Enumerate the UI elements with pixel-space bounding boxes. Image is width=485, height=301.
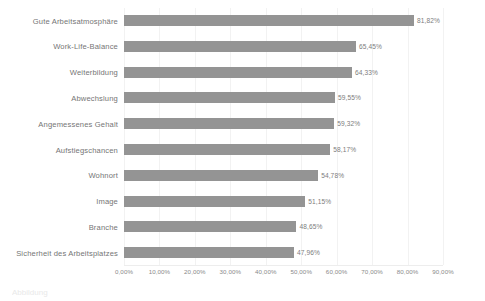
bar-value-label: 51,15%	[305, 196, 331, 207]
bar-value-label: 47,96%	[294, 247, 320, 258]
bar	[124, 170, 318, 181]
bar-row: Image51,15%	[0, 189, 485, 215]
category-label: Image	[0, 189, 118, 215]
bar-row: Weiterbildung64,33%	[0, 60, 485, 86]
x-axis-tick-labels: 0,00%10,00%20,00%30,00%40,00%50,00%60,00…	[0, 268, 485, 280]
x-tick-label: 60,00%	[326, 268, 348, 275]
bar	[124, 118, 334, 129]
bar	[124, 196, 305, 207]
bar	[124, 221, 296, 232]
category-label: Weiterbildung	[0, 60, 118, 86]
bar-row: Wohnort54,78%	[0, 163, 485, 189]
category-label: Wohnort	[0, 163, 118, 189]
bar-row: Work-Life-Balance65,45%	[0, 34, 485, 60]
bar-value-label: 81,82%	[414, 15, 440, 26]
x-tick-label: 10,00%	[149, 268, 171, 275]
category-label: Gute Arbeitsatmosphäre	[0, 8, 118, 34]
bar-value-label: 59,32%	[334, 118, 360, 129]
x-tick-label: 80,00%	[397, 268, 419, 275]
x-tick-label: 0,00%	[115, 268, 133, 275]
category-label: Angemessenes Gehalt	[0, 111, 118, 137]
category-label: Sicherheit des Arbeitsplatzes	[0, 240, 118, 266]
x-tick-label: 50,00%	[290, 268, 312, 275]
bar-row: Gute Arbeitsatmosphäre81,82%	[0, 8, 485, 34]
category-label: Work-Life-Balance	[0, 34, 118, 60]
category-label: Branche	[0, 214, 118, 240]
x-tick-label: 30,00%	[220, 268, 242, 275]
bar	[124, 92, 335, 103]
bar-row: Branche48,65%	[0, 214, 485, 240]
bar	[124, 144, 330, 155]
bar-rows: Gute Arbeitsatmosphäre81,82%Work-Life-Ba…	[0, 0, 485, 265]
bar	[124, 247, 294, 258]
bar-value-label: 64,33%	[352, 67, 378, 78]
x-tick-label: 40,00%	[255, 268, 277, 275]
bar-value-label: 58,17%	[330, 144, 356, 155]
bar-row: Sicherheit des Arbeitsplatzes47,96%	[0, 240, 485, 266]
bar-value-label: 65,45%	[356, 41, 382, 52]
figure-caption-clipped: Abbildung	[12, 289, 242, 301]
x-tick-label: 70,00%	[361, 268, 383, 275]
bar-row: Angemessenes Gehalt59,32%	[0, 111, 485, 137]
bar	[124, 67, 352, 78]
caption-text: Abbildung	[12, 289, 242, 297]
bar	[124, 41, 356, 52]
bar-row: Abwechslung59,55%	[0, 85, 485, 111]
bar-value-label: 48,65%	[296, 221, 322, 232]
bar-chart: Gute Arbeitsatmosphäre81,82%Work-Life-Ba…	[0, 0, 485, 301]
bar-value-label: 54,78%	[318, 170, 344, 181]
bar-value-label: 59,55%	[335, 92, 361, 103]
category-label: Abwechslung	[0, 85, 118, 111]
x-tick-label: 20,00%	[184, 268, 206, 275]
x-tick-label: 90,00%	[432, 268, 454, 275]
bar-row: Aufstiegschancen58,17%	[0, 137, 485, 163]
bar	[124, 15, 414, 26]
category-label: Aufstiegschancen	[0, 137, 118, 163]
